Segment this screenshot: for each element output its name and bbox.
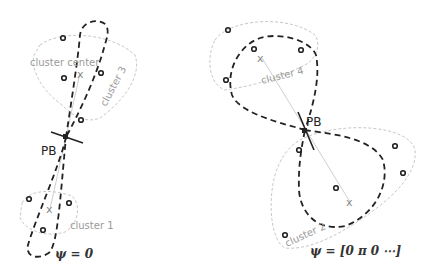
pb-label: PB bbox=[41, 144, 56, 158]
cluster2-boundary bbox=[271, 128, 415, 249]
cluster2-center-marker: x bbox=[346, 196, 353, 209]
psi-label-left: ψ = 0 bbox=[55, 247, 94, 261]
user-point bbox=[79, 118, 84, 123]
user-point bbox=[99, 71, 104, 76]
cluster4-center-marker: x bbox=[257, 52, 264, 65]
cluster3-center-marker: x bbox=[77, 68, 84, 81]
cluster4-label: cluster 4 bbox=[260, 65, 305, 86]
pb-marker bbox=[63, 134, 68, 139]
user-point bbox=[401, 171, 406, 176]
center-link-line bbox=[66, 73, 80, 137]
cluster1-label: cluster 1 bbox=[70, 220, 114, 231]
diagram-canvas: x x cluster center cluster 3 cluster 1 P… bbox=[0, 0, 431, 274]
pb-label: PB bbox=[306, 115, 321, 129]
user-point bbox=[27, 197, 32, 202]
cluster-center-label: cluster center bbox=[30, 57, 100, 68]
user-point bbox=[252, 47, 257, 52]
user-point bbox=[334, 186, 339, 191]
user-point bbox=[299, 48, 304, 53]
user-point bbox=[61, 36, 66, 41]
user-point bbox=[41, 228, 46, 233]
user-point bbox=[297, 148, 302, 153]
user-point bbox=[393, 144, 398, 149]
user-point bbox=[224, 78, 229, 83]
psi-label-right: ψ = [0 π 0 ⋯] bbox=[310, 244, 401, 258]
user-point bbox=[62, 76, 67, 81]
cluster1-center-marker: x bbox=[46, 203, 53, 216]
user-point bbox=[67, 201, 72, 206]
